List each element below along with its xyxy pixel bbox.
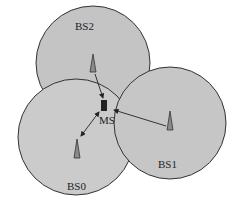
network-diagram: [0, 0, 233, 214]
label-ms: MS: [99, 114, 115, 126]
label-bs1: BS1: [158, 158, 177, 170]
label-bs0: BS0: [67, 180, 86, 192]
mobile-station-icon: [101, 100, 107, 111]
label-bs2: BS2: [75, 20, 94, 32]
